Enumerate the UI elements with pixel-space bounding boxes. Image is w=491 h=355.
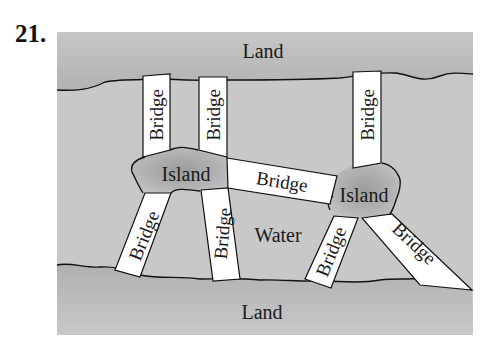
bridge-3-label: Bridge bbox=[357, 89, 378, 141]
bridge-3: Bridge bbox=[353, 71, 381, 168]
bridges-diagram: Bridge Bridge Bridge Bridge Bridge Bridg… bbox=[0, 0, 491, 355]
bridge-6-label: Bridge bbox=[210, 207, 235, 260]
bridge-1-label: Bridge bbox=[146, 89, 167, 141]
bridge-2-label: Bridge bbox=[203, 89, 224, 141]
bridge-2: Bridge bbox=[199, 77, 227, 157]
bottom-land-label: Land bbox=[241, 301, 282, 323]
water-label: Water bbox=[254, 224, 302, 246]
bridge-1: Bridge bbox=[143, 74, 170, 157]
left-island-label: Island bbox=[162, 163, 211, 185]
top-land-label: Land bbox=[242, 40, 283, 62]
right-island-label: Island bbox=[340, 184, 389, 206]
